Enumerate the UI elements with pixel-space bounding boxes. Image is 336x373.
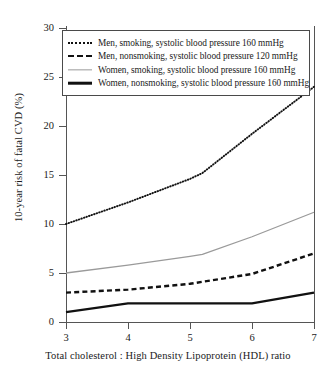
legend-item: Women, nonsmoking, systolic blood pressu…: [67, 77, 305, 91]
legend-label-women-smoking: Women, smoking, systolic blood pressure …: [98, 65, 295, 75]
legend-swatch-women-smoking: [67, 65, 93, 75]
legend-label-men-nonsmoking: Men, nonsmoking, systolic blood pressure…: [98, 51, 298, 61]
series-line-3: [66, 293, 314, 313]
legend-item: Men, nonsmoking, systolic blood pressure…: [67, 50, 305, 64]
legend-swatch-women-nonsmoking: [67, 78, 93, 88]
legend-swatch-men-smoking: [67, 38, 93, 48]
series-line-1: [66, 253, 314, 292]
legend-swatch-men-nonsmoking: [67, 51, 93, 61]
chart-legend: Men, smoking, systolic blood pressure 16…: [62, 30, 310, 96]
legend-item: Women, smoking, systolic blood pressure …: [67, 63, 305, 77]
legend-label-women-nonsmoking: Women, nonsmoking, systolic blood pressu…: [98, 78, 309, 88]
legend-label-men-smoking: Men, smoking, systolic blood pressure 16…: [98, 38, 284, 48]
legend-item: Men, smoking, systolic blood pressure 16…: [67, 36, 305, 50]
chart-figure: 10-year risk of fatal CVD (%) 3025201510…: [0, 0, 336, 373]
series-line-2: [66, 212, 314, 273]
x-axis-title: Total cholesterol : High Density Lipopro…: [0, 350, 336, 361]
series-line-0: [66, 87, 314, 224]
